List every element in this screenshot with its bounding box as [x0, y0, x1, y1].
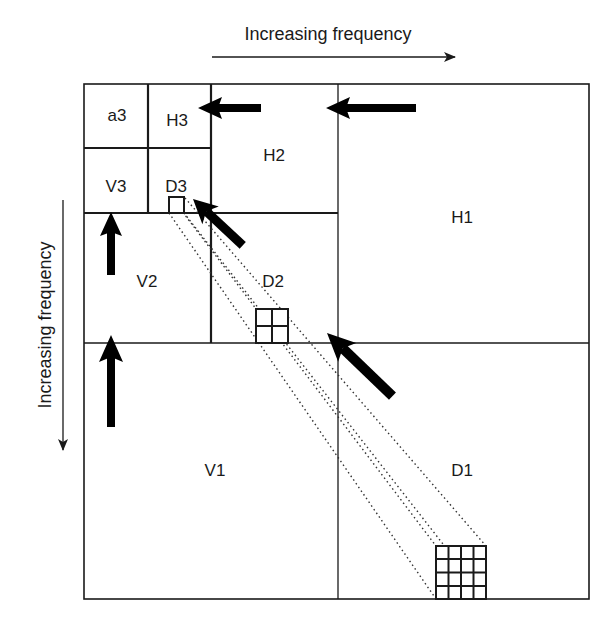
label-v3: V3 — [106, 177, 127, 196]
label-a3: a3 — [108, 106, 127, 125]
label-h2: H2 — [263, 146, 285, 165]
projection-line-bottom-left — [169, 213, 436, 599]
label-h1: H1 — [451, 208, 473, 227]
label-h3: H3 — [166, 111, 188, 130]
projection-lines — [169, 198, 486, 599]
label-d3: D3 — [165, 177, 187, 196]
vertical-axis: Increasing frequency — [35, 200, 63, 450]
d3-arrow-icon — [185, 190, 251, 254]
d2-coefficient-block — [256, 309, 288, 343]
subband-labels: a3 H3 V3 D3 H2 V2 D2 H1 V1 D1 — [106, 106, 473, 480]
label-d2: D2 — [262, 272, 284, 291]
projection-line-bottom-right — [184, 213, 486, 599]
d1-coefficient-block — [436, 546, 486, 599]
v3-arrow-icon — [100, 212, 122, 275]
direction-arrows — [99, 97, 416, 427]
coefficient-blocks — [169, 197, 486, 599]
v2-arrow-icon — [99, 335, 123, 427]
wavelet-diagram: Increasing frequency Increasing frequenc… — [0, 0, 612, 626]
label-v1: V1 — [205, 461, 226, 480]
d2-arrow-icon — [318, 324, 402, 406]
horizontal-axis: Increasing frequency — [212, 24, 455, 57]
h3-arrow-icon — [198, 97, 261, 119]
label-d1: D1 — [451, 461, 473, 480]
horizontal-axis-label: Increasing frequency — [244, 24, 411, 44]
d3-coefficient-block — [169, 197, 184, 213]
label-v2: V2 — [137, 272, 158, 291]
vertical-axis-label: Increasing frequency — [35, 241, 55, 408]
projection-line-top-right — [185, 198, 486, 546]
h2-arrow-icon — [326, 97, 416, 119]
